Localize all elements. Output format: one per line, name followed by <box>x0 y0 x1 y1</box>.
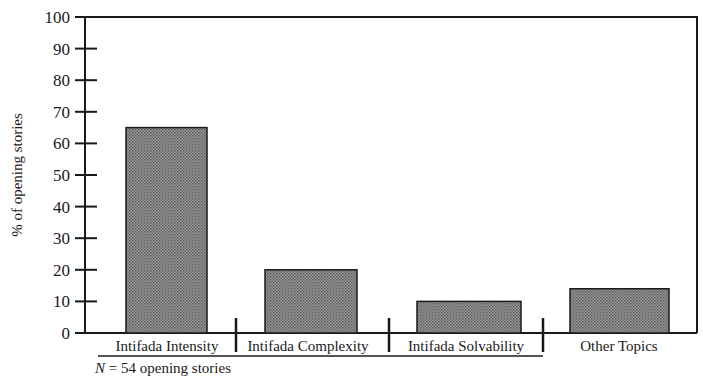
y-tick-label: 10 <box>53 292 70 311</box>
x-label-other-topics: Other Topics <box>580 338 658 354</box>
x-label-intifada-solvability: Intifada Solvability <box>408 338 525 354</box>
x-label-intifada-intensity: Intifada Intensity <box>116 338 219 354</box>
x-label-intifada-complexity: Intifada Complexity <box>247 338 369 354</box>
sample-size-note: N = 54 opening stories <box>94 360 231 376</box>
y-tick-label: 40 <box>53 198 70 217</box>
bar-chart: 0102030405060708090100 Intifada Intensit… <box>0 0 703 380</box>
y-tick-label: 100 <box>45 8 71 27</box>
y-axis-label: % of opening stories <box>9 113 25 237</box>
y-tick-label: 50 <box>53 166 70 185</box>
y-tick-label: 30 <box>53 229 70 248</box>
y-tick-label: 0 <box>62 324 71 343</box>
y-tick-label: 70 <box>53 103 70 122</box>
y-tick-label: 20 <box>53 261 70 280</box>
y-tick-label: 90 <box>53 40 70 59</box>
bar-other-topics <box>570 289 669 333</box>
bar-intifada-complexity <box>265 270 357 333</box>
y-axis-ticks: 0102030405060708090100 <box>45 8 98 343</box>
x-axis-labels: Intifada IntensityIntifada ComplexityInt… <box>116 338 658 354</box>
y-tick-label: 60 <box>53 134 70 153</box>
y-tick-label: 80 <box>53 71 70 90</box>
bars <box>126 128 669 333</box>
n-text: = 54 opening stories <box>105 360 231 376</box>
bar-intifada-intensity <box>126 128 207 333</box>
bar-intifada-solvability <box>417 301 521 333</box>
